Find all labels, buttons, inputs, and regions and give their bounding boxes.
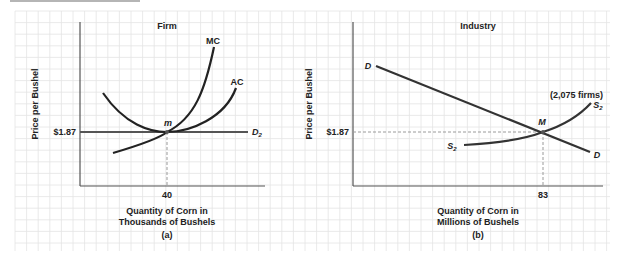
panel-firm: Firm Price per Bushel $1.87 m MC AC D2 4…: [30, 21, 265, 240]
d2-label: D2: [252, 127, 263, 138]
firms-count-annotation: (2,075 firms): [550, 90, 603, 100]
panel-industry: Industry Price per Bushel $1.87 M D D S2…: [304, 21, 603, 240]
demand-label-bottom: D: [594, 150, 601, 160]
x-axis-label-firm-line2: Thousands of Bushels: [119, 217, 216, 227]
equilibrium-label-M: M: [538, 117, 546, 127]
price-tick-firm: $1.87: [53, 127, 76, 137]
equilibrium-point-m: [165, 130, 169, 134]
panel-label-a: (a): [162, 230, 173, 240]
demand-label-top: D: [365, 61, 372, 71]
x-axis-label-industry-line1: Quantity of Corn in: [437, 206, 519, 216]
y-axis-label-firm: Price per Bushel: [30, 68, 40, 139]
panel-title-firm: Firm: [157, 21, 177, 31]
chart-canvas: Firm Price per Bushel $1.87 m MC AC D2 4…: [0, 0, 633, 262]
price-tick-industry: $1.87: [326, 127, 349, 137]
equilibrium-label-m: m: [164, 118, 172, 128]
x-axis-label-industry-line2: Millions of Bushels: [437, 217, 519, 227]
mc-label: MC: [206, 36, 220, 46]
quantity-tick-firm: 40: [162, 190, 172, 200]
quantity-tick-industry: 83: [538, 190, 548, 200]
panel-title-industry: Industry: [460, 21, 496, 31]
panel-label-b: (b): [472, 230, 484, 240]
y-axis-label-industry: Price per Bushel: [304, 68, 314, 139]
s2-label-right: S2: [593, 100, 603, 111]
mc-curve: [113, 47, 214, 153]
ac-label: AC: [231, 77, 244, 87]
demand-curve-industry: [376, 66, 590, 152]
x-axis-label-firm-line1: Quantity of Corn in: [126, 206, 208, 216]
equilibrium-point-M: [541, 130, 545, 134]
